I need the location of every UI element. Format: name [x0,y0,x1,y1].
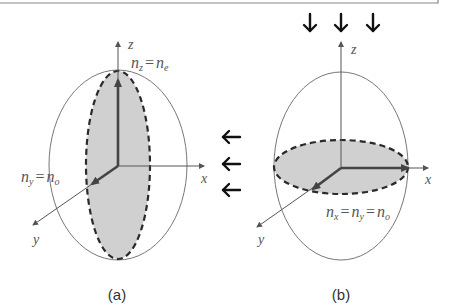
z-label-a: z [127,37,134,52]
ny-no-label: ny=no [21,168,59,187]
index-ellipsoid-figure: z x y nz=ne ny=no (a) [0,0,454,308]
down-arrow-icon [304,14,316,31]
incident-light-arrows-vertical [304,14,379,31]
x-label-b: x [424,172,432,187]
down-arrow-icon [335,14,347,31]
y-label-b: y [256,232,265,247]
caption-a: (a) [108,286,126,303]
caption-b: (b) [332,286,350,303]
x-label-a: x [200,171,208,186]
incident-light-arrows-horizontal [223,131,240,196]
nz-ne-label: nz=ne [131,54,169,73]
y-label-a: y [31,232,40,247]
panel-b: z x y nx=ny=no (b) [256,14,432,303]
nx-ny-no-label: nx=ny=no [326,203,390,222]
down-arrow-icon [367,14,379,31]
left-arrow-icon [223,131,240,143]
top-frame [0,0,438,4]
z-label-b: z [350,42,357,57]
left-arrow-icon [223,184,240,196]
left-arrow-icon [223,158,240,170]
panel-a: z x y nz=ne ny=no (a) [21,37,208,303]
